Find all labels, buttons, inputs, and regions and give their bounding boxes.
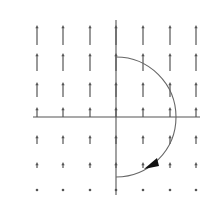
field-arrow-icon — [194, 25, 197, 45]
field-arrow-icon — [61, 53, 64, 71]
field-arrow-icon — [61, 162, 64, 168]
field-arrow-icon — [35, 107, 38, 117]
field-arrow-icon — [35, 135, 38, 144]
field-arrow-icon — [62, 189, 65, 192]
field-arrow-icon — [61, 82, 64, 97]
field-arrow-icon — [169, 189, 172, 192]
field-arrow-icon — [88, 162, 91, 168]
field-arrow-icon — [35, 82, 38, 97]
field-arrow-icon — [36, 189, 39, 192]
field-arrow-icon — [194, 82, 197, 97]
field-arrow-icon — [61, 107, 64, 117]
field-arrow-icon — [89, 189, 92, 192]
field-arrow-icon — [168, 162, 171, 168]
field-arrow-icon — [194, 162, 197, 168]
field-arrow-icon — [141, 82, 144, 97]
vector-field-diagram — [0, 0, 207, 200]
field-arrow-icon — [88, 107, 91, 117]
field-arrow-icon — [141, 107, 144, 117]
field-arrow-icon — [88, 53, 91, 71]
field-arrow-icon — [88, 82, 91, 97]
field-arrow-icon — [194, 135, 197, 144]
field-arrow-icon — [168, 107, 171, 117]
field-arrow-icon — [195, 189, 198, 192]
field-arrow-icon — [61, 25, 64, 45]
path-direction-arrowhead-icon — [144, 158, 159, 169]
field-arrow-icon — [141, 25, 144, 45]
field-arrow-icon — [88, 25, 91, 45]
field-arrow-icon — [61, 135, 64, 144]
field-arrow-icon — [35, 25, 38, 45]
field-arrow-icon — [141, 162, 144, 168]
field-arrow-icon — [88, 135, 91, 144]
field-arrow-icon — [35, 53, 38, 71]
field-arrow-icon — [168, 53, 171, 71]
field-arrow-icon — [194, 53, 197, 71]
field-arrow-icon — [168, 25, 171, 45]
field-arrow-icon — [141, 53, 144, 71]
field-arrow-icon — [194, 107, 197, 117]
field-arrow-icon — [142, 189, 145, 192]
field-arrow-icon — [141, 135, 144, 144]
field-arrow-icon — [35, 162, 38, 168]
